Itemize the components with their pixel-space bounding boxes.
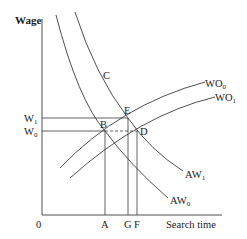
point-d-label: D xyxy=(140,126,148,137)
axes xyxy=(42,19,222,215)
x-tick-g: G xyxy=(124,219,132,230)
aw0-curve xyxy=(56,15,168,198)
search-wage-diagram: Wage Search time 0 W1 W0 A G F B E D C W… xyxy=(0,0,247,239)
y-tick-w0: W0 xyxy=(24,126,38,139)
x-axis-label: Search time xyxy=(166,219,216,230)
wo1-label: WO1 xyxy=(215,92,237,105)
aw1-label: AW1 xyxy=(185,169,206,182)
wo0-label: WO0 xyxy=(205,78,227,91)
guide-lines xyxy=(42,118,138,215)
wo1-curve xyxy=(70,97,215,178)
origin-label: 0 xyxy=(36,219,41,230)
point-c-label: C xyxy=(103,70,110,81)
x-tick-a: A xyxy=(101,219,109,230)
aw1-curve xyxy=(75,12,183,171)
y-axis-label: Wage xyxy=(15,14,41,26)
aw0-label: AW0 xyxy=(170,195,191,208)
y-tick-w1: W1 xyxy=(24,113,38,126)
point-b-label: B xyxy=(100,119,107,130)
x-tick-f: F xyxy=(134,219,140,230)
point-e-label: E xyxy=(124,105,130,116)
